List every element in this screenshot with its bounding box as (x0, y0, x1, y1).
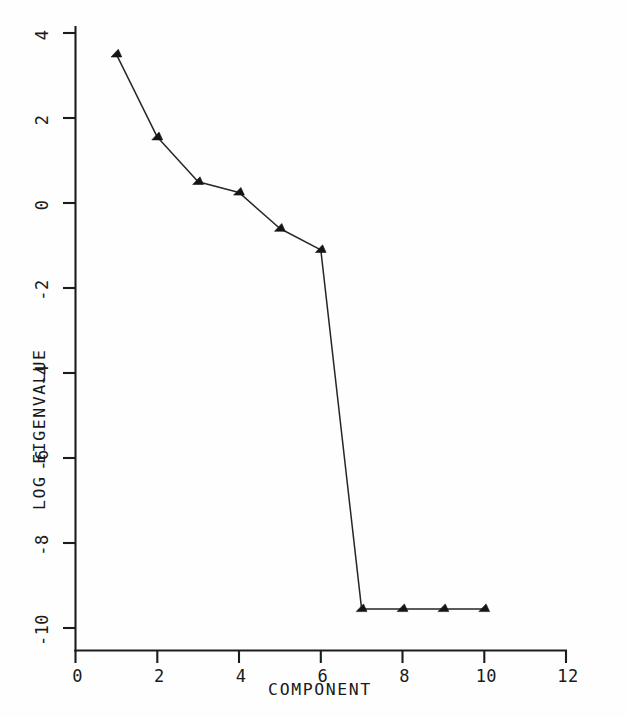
x-tick-label-10: 10 (476, 666, 497, 686)
x-tick-label-12: 12 (557, 666, 578, 686)
x-axis-ticks (76, 651, 567, 664)
data-point-marker (111, 49, 122, 57)
y-tick-label-0: 0 (32, 200, 52, 211)
data-point-markers (111, 49, 490, 611)
y-tick-label--10: -10 (32, 614, 52, 646)
y-axis-tick-labels: 420-2-4-6-8-10 (32, 30, 52, 646)
data-point-marker (152, 132, 163, 140)
x-tick-label-0: 0 (72, 666, 83, 686)
y-tick-label--8: -8 (32, 534, 52, 555)
x-tick-label-2: 2 (154, 666, 165, 686)
y-axis-ticks (63, 33, 76, 628)
x-axis-title: COMPONENT (268, 680, 372, 699)
data-series-line (116, 54, 484, 609)
y-tick-label-4: 4 (32, 30, 52, 41)
x-tick-label-4: 4 (236, 666, 247, 686)
data-point-marker (438, 604, 449, 612)
x-tick-label-8: 8 (399, 666, 410, 686)
data-point-marker (479, 604, 490, 612)
scree-plot-figure: 420-2-4-6-8-10 024681012 LOG EIGENVALUE … (0, 0, 628, 717)
y-tick-label--2: -2 (32, 279, 52, 300)
y-axis-title: LOG EIGENVALUE (30, 349, 49, 510)
scree-plot-canvas: 420-2-4-6-8-10 024681012 LOG EIGENVALUE … (0, 0, 628, 717)
y-tick-label-2: 2 (32, 115, 52, 126)
data-point-marker (397, 604, 408, 612)
